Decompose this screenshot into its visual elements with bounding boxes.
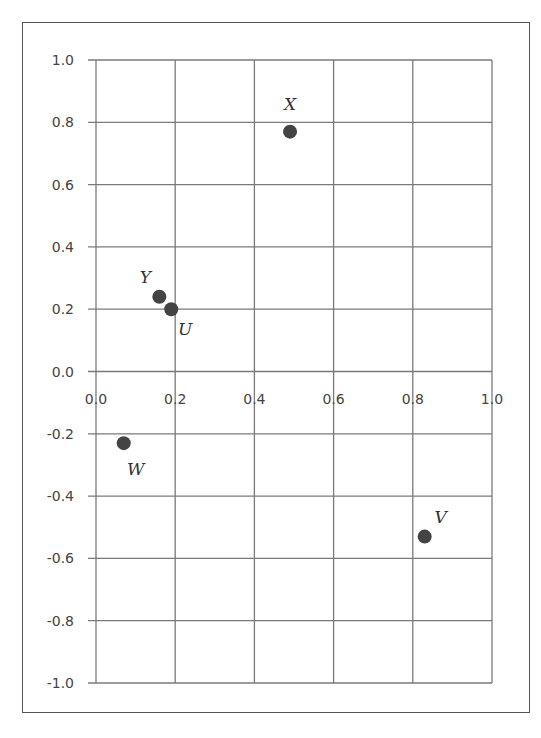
point-x	[283, 125, 297, 139]
y-tick-label: -0.6	[47, 550, 74, 566]
point-label-y: Y	[140, 267, 153, 287]
y-tick-label: 0.6	[52, 177, 74, 193]
y-tick-label: 1.0	[52, 52, 74, 68]
point-v	[418, 530, 432, 544]
x-tick-label: 0.6	[322, 391, 344, 407]
point-label-w: W	[127, 459, 146, 479]
point-y	[152, 290, 166, 304]
x-tick-label: 0.2	[164, 391, 186, 407]
point-label-u: U	[178, 319, 193, 339]
y-tick-label: -1.0	[47, 675, 74, 691]
point-label-v: V	[435, 507, 449, 527]
x-tick-label: 0.4	[243, 391, 265, 407]
grid-lines	[88, 60, 492, 683]
point-u	[164, 302, 178, 316]
x-tick-label: 0.0	[85, 391, 107, 407]
point-w	[117, 436, 131, 450]
y-tick-label: 0.8	[52, 114, 74, 130]
y-tick-label: 0.2	[52, 301, 74, 317]
y-axis-tick-labels: 1.00.80.60.40.20.0-0.2-0.4-0.6-0.8-1.0	[47, 52, 74, 691]
y-tick-label: 0.4	[52, 239, 74, 255]
data-points: XYUWV	[117, 94, 449, 544]
x-tick-label: 0.8	[402, 391, 424, 407]
y-tick-label: 0.0	[52, 364, 74, 380]
point-label-x: X	[282, 94, 297, 114]
y-tick-label: -0.8	[47, 613, 74, 629]
x-axis-tick-labels: 0.00.20.40.60.81.0	[85, 391, 503, 407]
scatter-plot: 0.00.20.40.60.81.0 1.00.80.60.40.20.0-0.…	[0, 0, 541, 738]
y-tick-label: -0.4	[47, 488, 74, 504]
x-tick-label: 1.0	[481, 391, 503, 407]
y-tick-label: -0.2	[47, 426, 74, 442]
